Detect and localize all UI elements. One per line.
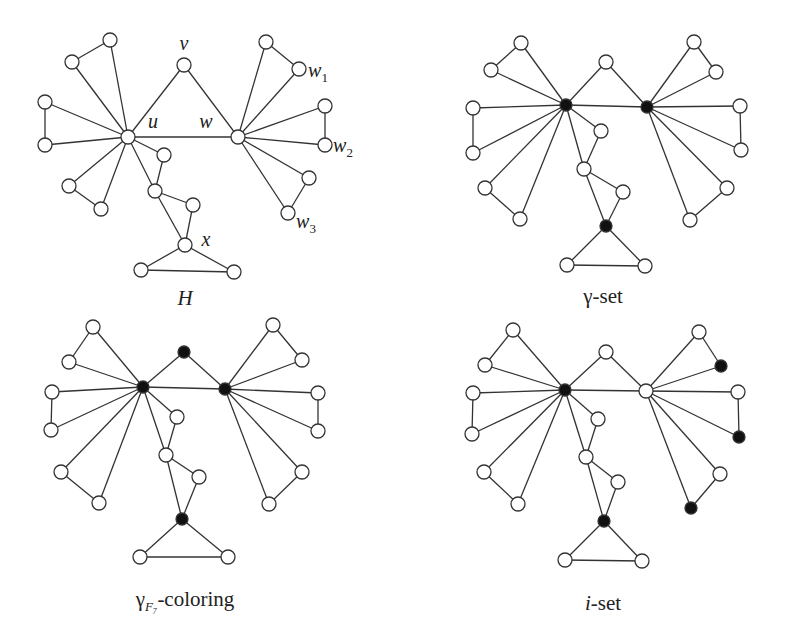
- edge: [472, 390, 565, 434]
- black-vertex-w: [219, 383, 231, 395]
- edge: [606, 226, 645, 266]
- vertex-b1: [692, 325, 706, 339]
- black-vertex-w3: [685, 502, 697, 514]
- vertex-w2a: [318, 99, 332, 113]
- edge: [647, 72, 716, 107]
- edge: [184, 352, 225, 389]
- edge: [141, 270, 234, 272]
- vertex-e1: [558, 553, 572, 567]
- vertex-e1: [134, 263, 148, 277]
- vertex-d2: [513, 212, 527, 226]
- vertex-a2: [103, 33, 117, 47]
- edge: [110, 40, 128, 137]
- vertex-a1: [484, 63, 498, 77]
- vertex-p3: [192, 470, 206, 484]
- black-vertex-v: [178, 346, 190, 358]
- vertex-p1: [157, 148, 171, 162]
- edge: [584, 169, 606, 226]
- edge: [473, 105, 566, 108]
- edge: [521, 43, 566, 105]
- vertex-e2: [221, 550, 235, 564]
- edge: [143, 352, 184, 387]
- vertex-d2: [92, 496, 106, 510]
- vertex-p2: [577, 162, 591, 176]
- black-vertex-w: [641, 101, 653, 113]
- edge: [567, 226, 606, 265]
- panel-graph-h: vuww1w2w3xH: [38, 32, 353, 310]
- vertex-v: [177, 58, 191, 72]
- vertex-c2: [44, 423, 58, 437]
- vertex-e2: [227, 265, 241, 279]
- vertex-e2: [638, 259, 652, 273]
- edge: [225, 389, 302, 472]
- vertex-label: w3: [296, 210, 316, 236]
- vertex-w1: [295, 353, 309, 367]
- vertex-w3a: [295, 465, 309, 479]
- vertex-label: w: [199, 110, 213, 132]
- panel-caption: i-set: [585, 591, 621, 615]
- panel-gamma-f7-coloring: γF₇-coloring: [44, 318, 325, 614]
- vertex-w2a: [733, 99, 747, 113]
- edge: [52, 387, 143, 392]
- vertex-p3: [611, 475, 625, 489]
- vertex-p1: [591, 412, 605, 426]
- vertex-label: x: [201, 228, 211, 250]
- vertex-b1: [687, 35, 701, 49]
- edge: [520, 105, 566, 219]
- vertex-e1: [133, 550, 147, 564]
- vertex-w3a: [713, 467, 727, 481]
- vertex-a1: [65, 55, 79, 69]
- vertex-a1: [62, 355, 76, 369]
- vertex-p2: [159, 448, 173, 462]
- vertex-d1: [478, 181, 492, 195]
- vertex-e1: [560, 258, 574, 272]
- edge: [225, 389, 318, 393]
- edge: [647, 42, 694, 107]
- edge: [238, 137, 288, 213]
- vertex-d1: [54, 465, 68, 479]
- vertex-c2: [465, 427, 479, 441]
- vertex-w2a: [731, 385, 745, 399]
- vertex-b1: [259, 35, 273, 49]
- edge: [565, 390, 646, 391]
- vertex-a2: [514, 36, 528, 50]
- edge: [155, 191, 185, 245]
- edge: [646, 391, 720, 474]
- vertex-w3: [683, 213, 697, 227]
- panel-caption: γ-set: [582, 284, 623, 308]
- edge: [143, 387, 225, 389]
- black-vertex-x: [176, 513, 188, 525]
- vertex-p1: [594, 124, 608, 138]
- edge: [565, 560, 642, 561]
- vertex-w1: [292, 62, 306, 76]
- edge: [646, 391, 739, 437]
- edge: [485, 105, 566, 188]
- black-vertex-u: [137, 381, 149, 393]
- vertex-p1: [170, 410, 184, 424]
- vertex-c2: [38, 138, 52, 152]
- edge: [484, 390, 565, 472]
- vertex-a1: [478, 358, 492, 372]
- edge: [485, 365, 565, 390]
- vertex-c2: [466, 146, 480, 160]
- vertex-v: [599, 55, 613, 69]
- black-vertex-w1: [715, 360, 727, 372]
- vertex-label: w1: [308, 59, 328, 85]
- vertex-a2: [86, 320, 100, 334]
- vertex-d2: [511, 497, 525, 511]
- edge: [513, 330, 565, 390]
- vertex-p3: [186, 198, 200, 212]
- edge: [473, 105, 566, 153]
- edge: [565, 521, 604, 560]
- vertex-w2: [311, 424, 325, 438]
- vertex-label: v: [180, 32, 189, 54]
- vertex-w2: [318, 138, 332, 152]
- vertex-p2: [579, 450, 593, 464]
- edge: [566, 105, 584, 169]
- vertex-c1: [466, 386, 480, 400]
- edge: [646, 391, 738, 392]
- edge: [491, 70, 566, 105]
- black-vertex-w2: [733, 431, 745, 443]
- edge: [518, 390, 565, 504]
- vertex-c1: [466, 101, 480, 115]
